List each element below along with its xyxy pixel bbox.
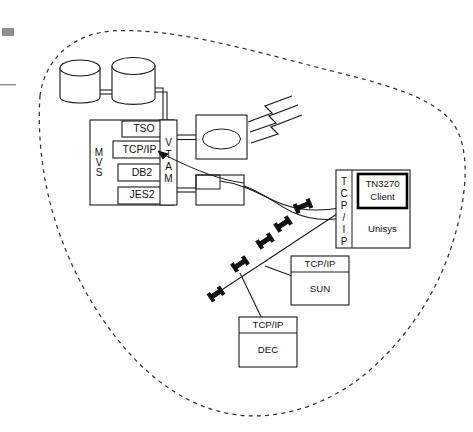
tn3270-client-label-line2: Client bbox=[370, 191, 395, 202]
vtam-label: M bbox=[164, 173, 172, 184]
unisys-stack-label: C bbox=[340, 188, 347, 199]
vtam-label: V bbox=[165, 137, 172, 148]
dasd-channel-cable bbox=[155, 88, 163, 120]
unisys-stack-label: P bbox=[341, 200, 348, 211]
unisys-stack-label: I bbox=[343, 224, 346, 235]
tn3270-client-label-line1: TN3270 bbox=[365, 178, 399, 189]
subsystem-tcpip-label: TCP/IP bbox=[123, 143, 157, 155]
network-diagram: M V S TSO TCP/IP DB2 JES2 V T A M bbox=[0, 0, 473, 432]
terminal-controller-2[interactable] bbox=[177, 175, 244, 205]
network-tap-icon[interactable] bbox=[231, 256, 249, 272]
unisys-stack-label: P bbox=[341, 236, 348, 247]
lightning-bolt-icon bbox=[248, 96, 292, 122]
network-tap-icon[interactable] bbox=[274, 216, 292, 232]
host-unisys[interactable]: T C P / I P TN3270 Client Unisys bbox=[336, 170, 410, 248]
sun-stack-label: TCP/IP bbox=[305, 258, 336, 269]
mvs-label: S bbox=[96, 167, 103, 178]
dasd-channel-cable bbox=[155, 92, 167, 120]
subsystem-jes2-label: JES2 bbox=[129, 188, 154, 200]
page-artifact-square bbox=[2, 28, 14, 36]
unisys-platform-label: Unisys bbox=[368, 223, 397, 234]
dec-platform-label: DEC bbox=[258, 344, 278, 355]
mainframe-mvs[interactable]: M V S TSO TCP/IP DB2 JES2 V T A M bbox=[90, 120, 177, 205]
terminal-controller-1[interactable] bbox=[177, 115, 247, 159]
network-tap-icon[interactable] bbox=[293, 199, 312, 214]
dasd-cylinder-1 bbox=[60, 60, 100, 103]
dec-stack-label: TCP/IP bbox=[253, 319, 284, 330]
unisys-stack-label: T bbox=[341, 176, 347, 187]
subsystem-db2-label: DB2 bbox=[132, 166, 153, 178]
wireless-signal-group bbox=[248, 96, 302, 143]
sun-platform-label: SUN bbox=[310, 283, 330, 294]
dasd-storage-group bbox=[60, 58, 167, 121]
host-sun[interactable]: TCP/IP SUN bbox=[291, 256, 349, 305]
dasd-cylinder-2 bbox=[112, 58, 155, 105]
subsystem-tso-label: TSO bbox=[133, 122, 155, 134]
branch-to-sun bbox=[265, 266, 292, 276]
host-dec[interactable]: TCP/IP DEC bbox=[239, 317, 297, 367]
network-tap-icon[interactable] bbox=[256, 233, 274, 249]
page-artifact-rule bbox=[0, 84, 16, 85]
terminal-display-box[interactable] bbox=[196, 115, 247, 159]
network-tap-terminator-icon[interactable] bbox=[207, 286, 224, 302]
vtam-label: A bbox=[165, 161, 172, 172]
backbone-line-lower bbox=[244, 186, 340, 219]
unisys-stack-label: / bbox=[343, 212, 346, 223]
